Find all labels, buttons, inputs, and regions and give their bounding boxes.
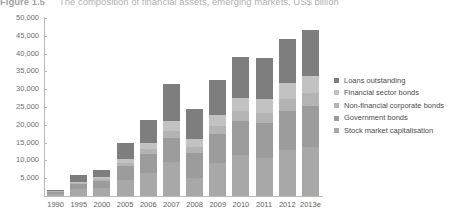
- bar-segment: [163, 121, 180, 131]
- bar-segment: [279, 150, 296, 196]
- figure-number: Figure 1.5: [0, 0, 45, 7]
- y-tick-label: 35,000: [0, 66, 44, 76]
- bar-segment: [163, 84, 180, 121]
- bar-segment: [209, 134, 226, 163]
- bar-segment: [140, 120, 157, 143]
- bar-segment: [232, 98, 249, 111]
- y-tick-label: 45,000: [0, 31, 44, 41]
- legend-item-label: Financial sector bonds: [344, 89, 419, 97]
- bar-segment: [279, 99, 296, 111]
- bar-stack: [232, 57, 249, 196]
- bar-segment: [186, 109, 203, 139]
- bar-segment: [117, 180, 134, 196]
- bar-segment: [140, 154, 157, 173]
- legend-item[interactable]: Loans outstanding: [334, 74, 451, 87]
- bar-stack: [70, 175, 87, 196]
- y-tick-label: 25,000: [0, 102, 44, 112]
- bar-segment: [302, 93, 319, 106]
- bar-segment: [256, 113, 273, 123]
- y-tick-label: 15,000: [0, 138, 44, 148]
- bar-segment: [186, 178, 203, 197]
- bar-segment: [140, 173, 157, 196]
- bar-segment: [209, 163, 226, 196]
- bar-segment: [279, 83, 296, 99]
- y-tick-label: 40,000: [0, 49, 44, 59]
- figure-title: Figure 1.5The composition of financial a…: [0, 0, 451, 9]
- bar-segment: [209, 115, 226, 126]
- bar-segment: [256, 158, 273, 196]
- bar-segment: [302, 106, 319, 147]
- bar-segment: [117, 143, 134, 159]
- legend-item[interactable]: Stock market capitalisation: [334, 124, 451, 137]
- legend-item[interactable]: Financial sector bonds: [334, 87, 451, 100]
- legend-item-label: Stock market capitalisation: [344, 127, 433, 135]
- legend-swatch-icon: [334, 128, 339, 133]
- bar-segment: [302, 30, 319, 76]
- bar-stack: [163, 84, 180, 196]
- bar-stack: [302, 30, 319, 196]
- y-tick-label: 10,000: [0, 155, 44, 165]
- bar-stack: [279, 39, 296, 196]
- bar-segment: [186, 153, 203, 177]
- bar-segment: [47, 194, 64, 196]
- x-axis-line: [44, 196, 323, 197]
- bar-segment: [93, 170, 110, 177]
- bar-stack: [140, 120, 157, 196]
- bar-segment: [70, 175, 87, 182]
- y-tick-label: 50,000: [0, 13, 44, 23]
- bar-segment: [256, 99, 273, 113]
- y-tick-label: 5,000: [0, 173, 44, 183]
- bar-segment: [302, 76, 319, 93]
- bar-segment: [70, 189, 87, 196]
- bar-segment: [93, 188, 110, 196]
- bar-segment: [232, 57, 249, 98]
- y-tick-label: 30,000: [0, 84, 44, 94]
- legend-swatch-icon: [334, 78, 339, 83]
- bar-segment: [186, 139, 203, 147]
- bar-stack: [256, 58, 273, 196]
- bar-stack: [117, 143, 134, 196]
- x-tick-label: 2013e: [295, 200, 325, 209]
- bar-segment: [209, 80, 226, 115]
- legend-swatch-icon: [334, 103, 339, 108]
- bar-stack: [186, 109, 203, 196]
- bar-segment: [256, 123, 273, 157]
- legend-item-label: Loans outstanding: [344, 77, 405, 85]
- plot-area: [44, 18, 322, 196]
- bar-segment: [140, 143, 157, 150]
- legend-swatch-icon: [334, 90, 339, 95]
- legend-item-label: Non-financial corporate bonds: [344, 102, 444, 110]
- bar-segment: [256, 58, 273, 99]
- bar-segment: [93, 181, 110, 188]
- bar-stack: [93, 170, 110, 196]
- legend-swatch-icon: [334, 116, 339, 121]
- bar-segment: [302, 147, 319, 196]
- bar-segment: [279, 39, 296, 83]
- legend-item[interactable]: Non-financial corporate bonds: [334, 99, 451, 112]
- bar-stack: [47, 190, 64, 196]
- legend-item[interactable]: Government bonds: [334, 112, 451, 125]
- bar-segment: [163, 162, 180, 196]
- y-tick-label: 20,000: [0, 120, 44, 130]
- legend-item-label: Government bonds: [344, 114, 408, 122]
- bar-segment: [279, 111, 296, 149]
- bar-segment: [163, 131, 180, 138]
- y-tick-mark: [44, 196, 47, 197]
- bar-segment: [232, 155, 249, 196]
- bar-stack: [209, 80, 226, 196]
- bar-segment: [232, 111, 249, 121]
- bar-segment: [117, 166, 134, 179]
- bar-segment: [232, 121, 249, 155]
- bar-segment: [209, 126, 226, 134]
- bar-segment: [163, 138, 180, 162]
- figure-title-text: The composition of financial assets, eme…: [59, 0, 339, 7]
- chart-legend: Loans outstandingFinancial sector bondsN…: [334, 74, 451, 137]
